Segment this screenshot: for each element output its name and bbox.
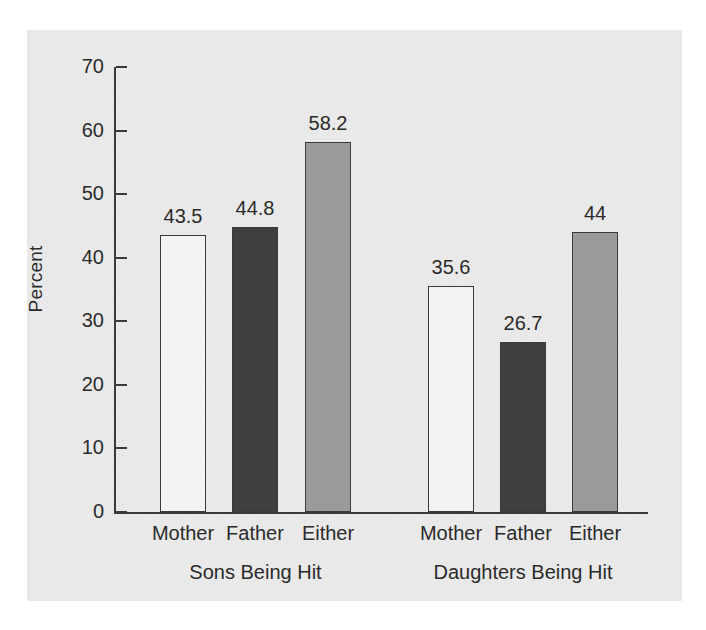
bar-value-label: 44 — [550, 203, 640, 223]
y-axis-tick — [116, 511, 127, 513]
y-axis-tick-label: 60 — [54, 120, 104, 140]
y-axis-tick-label: 50 — [54, 183, 104, 203]
bar-value-label: 26.7 — [478, 313, 568, 333]
y-axis-tick-label: 20 — [54, 374, 104, 394]
x-axis-group-label: Sons Being Hit — [106, 562, 406, 582]
y-axis-tick — [116, 384, 127, 386]
y-axis-tick-label: 70 — [54, 56, 104, 76]
x-axis-line — [114, 512, 648, 514]
y-axis-tick — [116, 130, 127, 132]
bar-mother-daughters — [428, 286, 474, 512]
x-axis-category-label: Either — [283, 523, 373, 543]
bar-mother-sons — [160, 235, 206, 512]
y-axis-title: Percent — [25, 209, 47, 349]
y-axis-tick-label: 10 — [54, 437, 104, 457]
bar-value-label: 44.8 — [210, 198, 300, 218]
bar-either-sons — [305, 142, 351, 512]
x-axis-group-label: Daughters Being Hit — [373, 562, 673, 582]
y-axis-tick-label: 0 — [54, 501, 104, 521]
chart-figure: Percent 706050403020100 43.544.858.235.6… — [0, 0, 706, 630]
y-axis-tick — [116, 257, 127, 259]
bar-father-daughters — [500, 342, 546, 512]
y-axis-tick-label: 40 — [54, 247, 104, 267]
y-axis-tick-label: 30 — [54, 310, 104, 330]
bar-value-label: 58.2 — [283, 113, 373, 133]
x-axis-category-label: Either — [550, 523, 640, 543]
y-axis-tick — [116, 320, 127, 322]
bar-chart-plot: Percent 706050403020100 43.544.858.235.6… — [0, 0, 706, 630]
bar-father-sons — [232, 227, 278, 512]
bar-either-daughters — [572, 232, 618, 512]
y-axis-tick — [116, 66, 127, 68]
bar-value-label: 35.6 — [406, 257, 496, 277]
y-axis-tick — [116, 447, 127, 449]
y-axis-tick — [116, 193, 127, 195]
